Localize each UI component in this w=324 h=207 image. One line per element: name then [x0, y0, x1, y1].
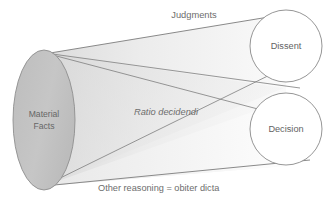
legal-reasoning-cone-diagram: Material Facts Dissent Decision Judgment…	[0, 0, 324, 207]
material-facts-line1: Material	[29, 109, 60, 119]
obiter-caption-plain: Other reasoning =	[98, 183, 174, 193]
dissent-label: Dissent	[271, 41, 302, 51]
material-facts-line2: Facts	[33, 121, 54, 131]
decision-node: Decision	[250, 93, 322, 165]
diagram-canvas: Material Facts Dissent Decision Judgment…	[0, 0, 324, 207]
judgments-label: Judgments	[171, 10, 217, 20]
material-facts-node: Material Facts	[13, 50, 75, 190]
ratio-decidendi-label: Ratio decidendi	[134, 107, 199, 117]
dissent-node: Dissent	[250, 10, 322, 82]
material-facts-ellipse	[13, 50, 75, 190]
decision-label: Decision	[268, 124, 303, 134]
obiter-caption-italic: obiter dicta	[174, 183, 220, 193]
obiter-caption: Other reasoning = obiter dicta	[98, 183, 220, 193]
